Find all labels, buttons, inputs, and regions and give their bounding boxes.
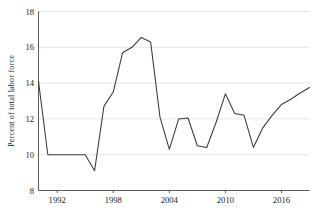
axes — [39, 12, 310, 191]
x-tick-label-2010: 2010 — [217, 195, 234, 205]
x-tick-label-1998: 1998 — [105, 195, 122, 205]
y-axis-label: Percent of total labor force — [7, 55, 16, 147]
chart-container: 81012141618 19921998200420102016 Percent… — [0, 0, 318, 218]
y-tick-label-8: 8 — [30, 186, 34, 196]
x-tick-label-1992: 1992 — [49, 195, 66, 205]
y-tick-label-16: 16 — [25, 42, 34, 52]
y-tick-label-14: 14 — [25, 78, 34, 88]
x-tick-label-2016: 2016 — [273, 195, 291, 205]
x-axis-tick-labels: 19921998200420102016 — [49, 195, 291, 205]
line-chart: 81012141618 19921998200420102016 Percent… — [0, 0, 318, 218]
series-line-labor-force — [39, 37, 310, 170]
y-tick-label-18: 18 — [25, 7, 34, 17]
data-series — [39, 37, 310, 170]
x-tick-label-2004: 2004 — [161, 195, 179, 205]
y-axis-label-text: Percent of total labor force — [7, 55, 16, 147]
y-tick-label-10: 10 — [25, 150, 34, 160]
y-axis-tick-labels: 81012141618 — [25, 7, 34, 196]
y-tick-label-12: 12 — [25, 114, 34, 124]
